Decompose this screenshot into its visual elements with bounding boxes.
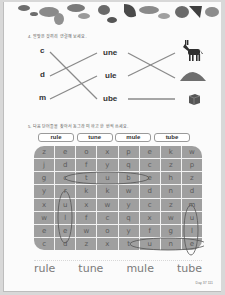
- grid-cell: y: [119, 225, 139, 237]
- grid-cell: t: [76, 172, 96, 184]
- grid-cell: d: [182, 185, 202, 197]
- word-search-grid: zeoxpekwjdfyqczpgctubehzyrkkwdndxuxwyczm…: [34, 146, 202, 250]
- grid-cell: c: [34, 238, 54, 250]
- grid-cell: x: [34, 199, 54, 211]
- section4-instruction: 4. 알맞은 것끼리 연결해 보세요.: [28, 33, 87, 39]
- grid-cell: n: [161, 185, 181, 197]
- answer-word-tune: tune: [78, 262, 103, 275]
- grid-cell: y: [119, 199, 139, 211]
- grid-cell: d: [55, 159, 75, 171]
- grid-cell: g: [161, 225, 181, 237]
- grid-cell: l: [55, 212, 75, 224]
- grid-cell: u: [182, 212, 202, 224]
- sand-dune-icon: [180, 70, 206, 82]
- grid-cell: e: [55, 146, 75, 158]
- answer-word-mule: mule: [126, 262, 154, 275]
- grid-cell: x: [97, 146, 117, 158]
- grid-cell: q: [119, 159, 139, 171]
- worksheet-page: 4. 알맞은 것끼리 연결해 보세요. c d m une ule ube: [3, 2, 221, 292]
- grid-cell: t: [119, 238, 139, 250]
- grid-cell: k: [76, 185, 96, 197]
- grid-cell: e: [140, 172, 160, 184]
- grid-cell: f: [76, 212, 96, 224]
- grid-cell: f: [140, 225, 160, 237]
- grid-cell: p: [182, 159, 202, 171]
- grid-cell: o: [76, 146, 96, 158]
- match-suffix-ule: ule: [105, 71, 117, 80]
- grid-cell: f: [76, 159, 96, 171]
- word-box-tune: tune: [77, 133, 113, 142]
- grid-cell: z: [34, 146, 54, 158]
- answer-word-rule: rule: [34, 262, 55, 275]
- grid-cell: u: [140, 238, 160, 250]
- grid-cell: z: [76, 238, 96, 250]
- answer-word-tube: tube: [177, 262, 202, 275]
- grid-cell: x: [97, 238, 117, 250]
- grid-cell: x: [76, 199, 96, 211]
- grid-cell: e: [140, 146, 160, 158]
- match-suffix-ube: ube: [103, 94, 117, 103]
- grid-cell: o: [97, 225, 117, 237]
- cube-icon: [187, 92, 201, 106]
- match-suffix-une: une: [103, 48, 117, 57]
- match-letter-d: d: [40, 70, 45, 79]
- donkey-icon: [182, 40, 204, 62]
- grid-cell: q: [119, 212, 139, 224]
- word-box-rule: rule: [38, 133, 74, 142]
- grid-cell: c: [55, 172, 75, 184]
- grid-cell: w: [182, 146, 202, 158]
- grid-cell: k: [161, 146, 181, 158]
- grid-cell: w: [34, 212, 54, 224]
- grid-cell: m: [182, 199, 202, 211]
- grid-cell: x: [140, 212, 160, 224]
- grid-cell: w: [119, 185, 139, 197]
- grid-cell: z: [161, 199, 181, 211]
- grid-cell: e: [34, 225, 54, 237]
- grid-cell: b: [119, 172, 139, 184]
- grid-cell: c: [97, 212, 117, 224]
- grid-cell: y: [34, 185, 54, 197]
- grid-cell: y: [97, 159, 117, 171]
- match-letter-c: c: [40, 46, 44, 55]
- match-letter-m: m: [39, 93, 46, 102]
- grid-cell: u: [97, 172, 117, 184]
- grid-cell: l: [182, 225, 202, 237]
- word-bank: rule tune mule tube: [38, 133, 190, 142]
- grid-cell: z: [161, 159, 181, 171]
- grid-cell: w: [97, 199, 117, 211]
- grid-cell: d: [140, 185, 160, 197]
- grid-cell: g: [34, 172, 54, 184]
- grid-cell: p: [119, 146, 139, 158]
- word-box-mule: mule: [115, 133, 151, 142]
- grid-cell: w: [76, 225, 96, 237]
- grid-cell: h: [161, 172, 181, 184]
- grid-cell: w: [161, 212, 181, 224]
- word-box-tube: tube: [154, 133, 190, 142]
- grid-cell: u: [55, 199, 75, 211]
- grid-cell: k: [97, 185, 117, 197]
- grid-cell: e: [182, 238, 202, 250]
- grid-cell: r: [55, 185, 75, 197]
- grid-cell: c: [140, 199, 160, 211]
- grid-cell: n: [161, 238, 181, 250]
- grid-cell: j: [34, 159, 54, 171]
- leaves-decoration-icon: [4, 2, 221, 28]
- grid-cell: z: [182, 172, 202, 184]
- grid-cell: d: [55, 238, 75, 250]
- grid-cell: e: [55, 225, 75, 237]
- grid-cell: c: [140, 159, 160, 171]
- answer-writing-row: rule tune mule tube: [34, 260, 202, 275]
- section5-instruction: 5. 다음 단어들을 찾아서 동그라미 하고 한 번씩 쓰세요.: [28, 123, 129, 129]
- page-number: Day 37 111: [196, 281, 213, 285]
